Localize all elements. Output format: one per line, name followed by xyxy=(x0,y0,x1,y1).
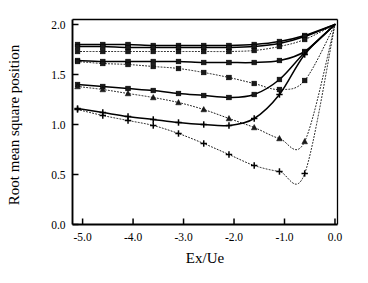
data-point-marker xyxy=(176,66,181,71)
data-point-marker xyxy=(151,64,156,69)
data-point-marker xyxy=(201,93,206,98)
data-point-marker xyxy=(252,81,257,86)
x-tick-label: -3.0 xyxy=(174,231,192,243)
data-point-marker xyxy=(75,44,80,49)
x-tick-label: 0.0 xyxy=(328,231,343,243)
data-point-marker xyxy=(252,92,257,97)
data-point-marker xyxy=(126,62,131,67)
y-axis-title: Root mean square position xyxy=(6,44,22,205)
data-point-marker xyxy=(201,70,206,75)
x-axis-title-text: Ex/Ue xyxy=(186,250,225,266)
y-tick-label: 2.0 xyxy=(51,19,66,31)
y-tick-label: 1.5 xyxy=(51,69,66,81)
data-point-marker xyxy=(252,48,257,53)
data-point-marker xyxy=(176,91,181,96)
y-tick-label: 1.0 xyxy=(51,119,66,131)
data-point-marker xyxy=(201,49,206,54)
x-tick-label: -4.0 xyxy=(124,231,142,243)
data-point-marker xyxy=(75,49,80,54)
data-point-marker xyxy=(176,49,181,54)
x-tick-label: -1.0 xyxy=(275,231,293,243)
data-point-marker xyxy=(75,59,80,64)
data-point-marker xyxy=(100,49,105,54)
data-point-marker xyxy=(100,44,105,49)
data-point-marker xyxy=(277,44,282,49)
data-point-marker xyxy=(302,37,307,42)
data-point-marker xyxy=(277,77,282,82)
rms-position-line-chart: Root mean square position Ex/Ue 0.00.51.… xyxy=(0,0,368,283)
data-point-marker xyxy=(151,49,156,54)
data-point-marker xyxy=(151,59,156,64)
data-point-marker xyxy=(227,49,232,54)
y-axis-title-text: Root mean square position xyxy=(6,44,22,205)
y-tick-label: 0.5 xyxy=(51,169,66,181)
x-tick-label: -2.0 xyxy=(225,231,243,243)
y-tick-label: 0.0 xyxy=(51,219,66,231)
data-point-marker xyxy=(176,59,181,64)
chart-figure: Root mean square position Ex/Ue 0.00.51.… xyxy=(0,0,368,283)
data-point-marker xyxy=(227,60,232,65)
x-axis-title: Ex/Ue xyxy=(186,250,225,266)
data-point-marker xyxy=(302,78,307,83)
data-point-marker xyxy=(227,75,232,80)
data-point-marker xyxy=(100,61,105,66)
data-point-marker xyxy=(252,60,257,65)
data-point-marker xyxy=(277,58,282,63)
data-point-marker xyxy=(151,88,156,93)
data-point-marker xyxy=(201,60,206,65)
data-point-marker xyxy=(126,49,131,54)
x-tick-label: -5.0 xyxy=(73,231,91,243)
data-point-marker xyxy=(227,95,232,100)
